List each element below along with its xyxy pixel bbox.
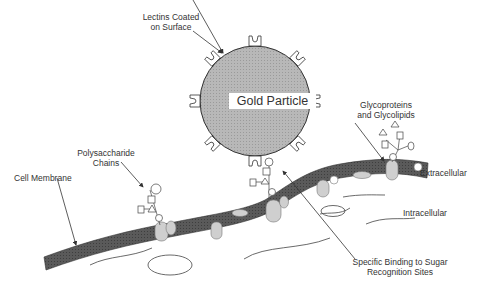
binding-label-line-2: Recognition Sites [345,267,455,277]
diagram-graphics [0,0,486,287]
binding-label: Specific Binding to Sugar Recognition Si… [345,257,455,277]
gold-particle-label: Gold Particle [229,93,316,109]
lectins-label-line-2: on Surface [126,22,216,32]
intracellular-label: Intracellular [403,208,463,218]
lectins-label: Lectins Coated on Surface [126,12,216,32]
diagram-canvas: Gold Particle Lectins Coated on Surface … [0,0,486,287]
polysaccharide-label-line-1: Polysaccharide [58,148,154,158]
polysaccharide-label: Polysaccharide Chains [58,148,154,168]
right-sugar-chain [379,121,414,162]
bound-sugar-chain [250,158,276,200]
lectins-label-line-1: Lectins Coated [126,12,216,22]
polysaccharide-label-line-2: Chains [58,158,154,168]
extracellular-label: Extracellular [420,168,480,178]
glycoproteins-label-line-2: and Glycolipids [341,110,431,120]
cell-membrane-label: Cell Membrane [14,173,76,183]
left-sugar-chain [138,184,163,225]
glycoproteins-label-line-1: Glycoproteins [341,100,431,110]
binding-label-line-1: Specific Binding to Sugar [345,257,455,267]
glycoproteins-label: Glycoproteins and Glycolipids [341,100,431,120]
